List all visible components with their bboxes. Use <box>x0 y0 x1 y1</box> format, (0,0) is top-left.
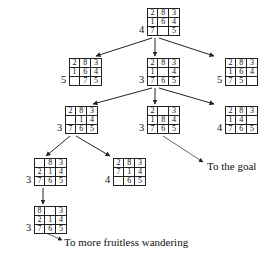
puzzle-grid: 28314765 <box>147 58 180 86</box>
tile-2-2: 5 <box>135 177 145 185</box>
tile-1-2: 4 <box>87 116 97 124</box>
heuristic-value: 3 <box>139 123 147 134</box>
tile-0-0: 2 <box>226 107 236 115</box>
puzzle-grid: 28316475 <box>69 58 102 86</box>
tile-0-1: 8 <box>45 159 55 167</box>
tile-1-0: 1 <box>226 68 236 76</box>
annotation-to-more-fruitless-wandering: To more fruitless wandering <box>64 236 188 248</box>
tile-1-2: 4 <box>56 216 66 224</box>
tile-1-1: 8 <box>158 116 168 124</box>
puzzle-grid: 28314765 <box>225 106 258 134</box>
tile-0-2: 3 <box>56 207 66 215</box>
tile-0-2: 3 <box>247 59 257 67</box>
tile-0-0: 2 <box>148 107 158 115</box>
tile-0-1: 8 <box>80 59 90 67</box>
tile-2-2: 5 <box>56 225 66 233</box>
tile-0-0 <box>35 159 45 167</box>
tile-0-0: 2 <box>66 107 76 115</box>
puzzle-grid: 28371465 <box>113 158 146 186</box>
tile-2-0: 7 <box>148 27 158 35</box>
tile-1-0: 7 <box>114 168 124 176</box>
puzzle-grid: 83214765 <box>34 158 67 186</box>
tile-0-1: 8 <box>76 107 86 115</box>
tile-1-1: 4 <box>236 116 246 124</box>
edge-l3left-to-l4-right <box>76 136 110 156</box>
tile-0-2: 3 <box>169 9 179 17</box>
edge-root-to-l2-right <box>159 38 214 56</box>
tile-0-0: 2 <box>226 59 236 67</box>
tile-1-0: 1 <box>148 68 158 76</box>
tile-2-2: 5 <box>247 125 257 133</box>
puzzle-grid: 28314765 <box>65 106 98 134</box>
tile-2-2: 5 <box>169 27 179 35</box>
puzzle-grid: 83214765 <box>34 206 67 234</box>
tile-0-2: 3 <box>169 107 179 115</box>
tile-2-2: 5 <box>56 177 66 185</box>
tile-1-2: 4 <box>135 168 145 176</box>
tile-1-1: 1 <box>76 116 86 124</box>
tile-1-1: 6 <box>158 18 168 26</box>
tile-1-2: 4 <box>169 18 179 26</box>
tile-2-1: 7 <box>80 77 90 85</box>
tile-0-1 <box>45 207 55 215</box>
tile-1-2: 4 <box>247 68 257 76</box>
puzzle-node-l4-left: 383214765 <box>26 158 67 186</box>
tile-1-1: 6 <box>80 68 90 76</box>
puzzle-node-l3-mid: 323184765 <box>139 106 180 134</box>
tile-0-1: 8 <box>236 107 246 115</box>
tile-1-1: 1 <box>45 168 55 176</box>
tile-1-0 <box>66 116 76 124</box>
heuristic-value: 3 <box>26 175 34 186</box>
tile-0-1 <box>158 107 168 115</box>
tile-2-2: 5 <box>169 125 179 133</box>
tile-1-1: 1 <box>45 216 55 224</box>
tile-1-0: 2 <box>35 216 45 224</box>
puzzle-grid: 28316475 <box>225 58 258 86</box>
puzzle-node-l5-left: 383214765 <box>26 206 67 234</box>
tile-2-1: 6 <box>76 125 86 133</box>
edge-l2mid-to-l3-right <box>159 88 214 104</box>
puzzle-grid: 28316475 <box>147 8 180 36</box>
tile-2-0: 7 <box>66 125 76 133</box>
tile-2-1: 6 <box>236 125 246 133</box>
tile-0-1: 8 <box>124 159 134 167</box>
tile-2-1: 6 <box>45 225 55 233</box>
tile-1-2: 4 <box>169 68 179 76</box>
tile-1-1: 6 <box>236 68 246 76</box>
tile-1-1: 1 <box>124 168 134 176</box>
tile-2-2 <box>247 77 257 85</box>
edge-l3right-to-goal <box>163 136 203 162</box>
tile-0-0: 8 <box>35 207 45 215</box>
tile-2-1: 6 <box>45 177 55 185</box>
tile-1-0: 1 <box>226 116 236 124</box>
puzzle-grid: 23184765 <box>147 106 180 134</box>
puzzle-node-l2-mid: 328314765 <box>139 58 180 86</box>
tile-0-2: 3 <box>135 159 145 167</box>
tile-2-2: 5 <box>91 77 101 85</box>
tile-0-2: 3 <box>247 107 257 115</box>
tile-2-0: 7 <box>226 125 236 133</box>
heuristic-value: 4 <box>105 175 113 186</box>
tile-2-0: 7 <box>226 77 236 85</box>
puzzle-node-l4-right: 428371465 <box>105 158 146 186</box>
heuristic-value: 4 <box>217 123 225 134</box>
tile-0-2: 3 <box>87 107 97 115</box>
tile-1-0: 1 <box>148 116 158 124</box>
heuristic-value: 5 <box>217 75 225 86</box>
tile-1-2: 4 <box>91 68 101 76</box>
tile-1-1 <box>158 68 168 76</box>
tile-2-1 <box>158 27 168 35</box>
tile-1-2: 4 <box>56 168 66 176</box>
tile-0-2: 3 <box>56 159 66 167</box>
heuristic-value: 4 <box>139 25 147 36</box>
tile-2-0: 7 <box>148 125 158 133</box>
tile-2-2: 5 <box>169 77 179 85</box>
tile-0-0: 2 <box>70 59 80 67</box>
heuristic-value: 3 <box>139 75 147 86</box>
tile-0-1: 8 <box>158 59 168 67</box>
tile-0-2: 3 <box>169 59 179 67</box>
tile-1-0: 2 <box>35 168 45 176</box>
tile-2-0 <box>70 77 80 85</box>
puzzle-node-root: 428316475 <box>139 8 180 36</box>
tile-0-0: 2 <box>148 59 158 67</box>
